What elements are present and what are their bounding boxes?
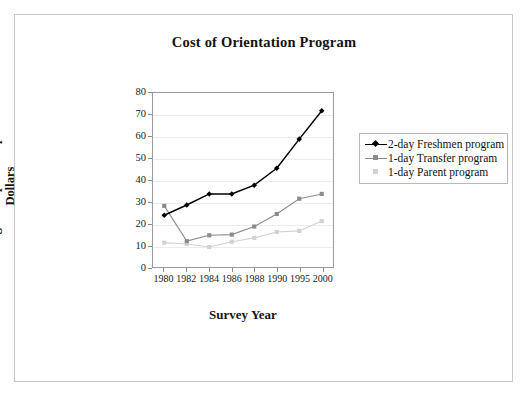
y-tick-label: 80	[120, 86, 146, 97]
series-2	[162, 192, 324, 243]
y-tick-mark	[148, 268, 152, 269]
y-tick-label: 10	[120, 240, 146, 251]
data-point	[275, 212, 279, 216]
series-1	[161, 108, 324, 218]
y-tick-label: 50	[120, 152, 146, 163]
legend-label: 2-day Freshmen program	[388, 138, 504, 151]
x-tick-mark	[163, 268, 164, 272]
data-point	[161, 212, 167, 218]
x-tick-mark	[300, 268, 301, 272]
series-3	[162, 219, 324, 249]
y-tick-mark	[148, 180, 152, 181]
legend-item-2[interactable]: 1-day Transfer program	[364, 151, 503, 165]
legend-item-1[interactable]: 2-day Freshmen program	[364, 137, 503, 151]
legend-label: 1-day Parent program	[388, 166, 488, 179]
data-point	[184, 202, 190, 208]
data-point	[320, 219, 324, 223]
y-tick-mark	[148, 224, 152, 225]
x-tick-mark	[209, 268, 210, 272]
x-axis-title: Survey Year	[152, 307, 334, 323]
legend-marker-icon	[364, 152, 388, 164]
data-point	[162, 241, 166, 245]
y-tick-mark	[148, 92, 152, 93]
data-point	[297, 229, 301, 233]
y-tick-mark	[148, 114, 152, 115]
x-tick-mark	[254, 268, 255, 272]
legend-item-3[interactable]: 1-day Parent program	[364, 165, 503, 179]
data-point	[320, 192, 324, 196]
plot-area	[152, 92, 334, 268]
data-point	[252, 224, 256, 228]
data-point	[230, 233, 234, 237]
series-plot	[153, 93, 333, 267]
data-point	[252, 236, 256, 240]
x-tick-mark	[186, 268, 187, 272]
y-tick-label: 0	[120, 262, 146, 273]
y-tick-label: 40	[120, 174, 146, 185]
legend-marker-icon	[364, 166, 388, 178]
x-tick-mark	[323, 268, 324, 272]
legend-marker-icon	[364, 138, 388, 150]
data-point	[162, 204, 166, 208]
y-tick-label: 30	[120, 196, 146, 207]
legend-label: 1-day Transfer program	[388, 152, 497, 165]
y-tick-mark	[148, 202, 152, 203]
y-tick-mark	[148, 158, 152, 159]
data-point	[275, 230, 279, 234]
data-point	[207, 245, 211, 249]
x-tick-label: 2000	[306, 273, 340, 284]
data-point	[185, 239, 189, 243]
y-tick-mark	[148, 246, 152, 247]
y-axis-title: Average Cost per Partipant in Dollars	[0, 86, 14, 286]
data-point	[297, 197, 301, 201]
data-point	[230, 240, 234, 244]
chart-legend: 2-day Freshmen program1-day Transfer pro…	[359, 133, 508, 184]
y-tick-label: 20	[120, 218, 146, 229]
y-tick-mark	[148, 136, 152, 137]
x-tick-mark	[232, 268, 233, 272]
y-tick-label: 60	[120, 130, 146, 141]
data-point	[206, 191, 212, 197]
chart-title: Cost of Orientation Program	[0, 34, 528, 51]
data-point	[207, 233, 211, 237]
x-tick-mark	[277, 268, 278, 272]
y-tick-label: 70	[120, 108, 146, 119]
data-point	[229, 191, 235, 197]
